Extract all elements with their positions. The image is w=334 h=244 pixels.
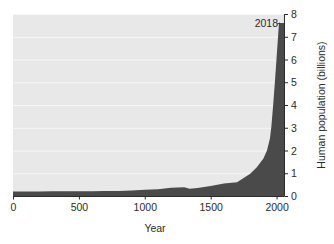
x-tick-label-2000: 2000 xyxy=(265,201,289,213)
x-tick-label-500: 500 xyxy=(71,201,89,213)
x-tick-label-1500: 1500 xyxy=(200,201,224,213)
y-tick-label-3: 3 xyxy=(291,122,297,134)
chart-canvas: 012345678 0500100015002000 2018 Year Hum… xyxy=(0,0,334,244)
y-tick-label-6: 6 xyxy=(291,54,297,66)
y-tick-label-4: 4 xyxy=(291,99,297,111)
y-tick-label-1: 1 xyxy=(291,167,297,179)
y-axis-title: Human population (billions) xyxy=(315,41,327,168)
y-tick-label-5: 5 xyxy=(291,76,297,88)
y-tick-label-8: 8 xyxy=(291,8,297,20)
x-tick-label-0: 0 xyxy=(11,201,17,213)
population-growth-chart: 012345678 0500100015002000 2018 Year Hum… xyxy=(0,0,334,244)
y-tick-label-0: 0 xyxy=(291,190,297,202)
x-axis-title: Year xyxy=(144,222,166,234)
y-tick-label-2: 2 xyxy=(291,145,297,157)
annotation-label-2018: 2018 xyxy=(255,17,279,29)
y-tick-label-7: 7 xyxy=(291,31,297,43)
x-tick-label-1000: 1000 xyxy=(134,201,158,213)
